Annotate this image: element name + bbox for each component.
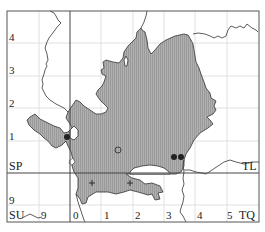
filled-dot-marker bbox=[171, 154, 177, 160]
bottom-label-9: 9 bbox=[41, 209, 47, 221]
left-label-2: 2 bbox=[9, 97, 15, 109]
distribution-map: 4 3 2 1 9 9 0 1 2 3 4 5 SP SU TL TQ bbox=[0, 0, 265, 232]
bottom-label-5: 5 bbox=[227, 209, 233, 221]
bottom-label-0: 0 bbox=[73, 209, 79, 221]
shaded-region bbox=[27, 28, 216, 204]
grid-label-tl: TL bbox=[242, 159, 257, 173]
bottom-label-4: 4 bbox=[197, 209, 203, 221]
left-label-9: 9 bbox=[9, 194, 15, 206]
left-label-4: 4 bbox=[9, 31, 15, 43]
grid-label-tq: TQ bbox=[239, 208, 255, 222]
filled-dot-marker bbox=[64, 134, 70, 140]
filled-dot-marker bbox=[178, 154, 184, 160]
left-axis-labels: 4 3 2 1 9 bbox=[9, 31, 15, 206]
bottom-label-1: 1 bbox=[104, 209, 110, 221]
bottom-label-2: 2 bbox=[135, 209, 141, 221]
left-label-3: 3 bbox=[9, 64, 15, 76]
left-label-1: 1 bbox=[9, 130, 15, 142]
bottom-label-3: 3 bbox=[166, 209, 172, 221]
grid-label-sp: SP bbox=[9, 159, 23, 173]
grid-label-su: SU bbox=[9, 208, 25, 222]
